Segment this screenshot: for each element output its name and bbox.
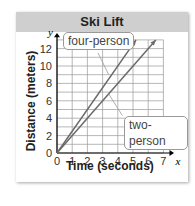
y-axis-label: Distance (meters) <box>24 46 38 156</box>
svg-text:0: 0 <box>54 155 60 167</box>
svg-text:0: 0 <box>46 147 52 159</box>
svg-text:4: 4 <box>46 112 52 124</box>
svg-text:7: 7 <box>160 155 166 167</box>
svg-text:10: 10 <box>40 60 52 72</box>
callout-four-person: four-person <box>63 32 134 50</box>
svg-text:8: 8 <box>46 77 52 89</box>
svg-text:12: 12 <box>40 43 52 55</box>
x-axis-label: Time (seconds) <box>66 159 154 173</box>
svg-text:6: 6 <box>46 95 52 107</box>
svg-text:x: x <box>175 155 181 167</box>
svg-text:2: 2 <box>46 130 52 142</box>
callout-two-person: two-person <box>124 116 188 150</box>
chart-card: Ski Lift 01234567024681012xy Distance (m… <box>16 12 188 182</box>
svg-text:y: y <box>47 26 53 38</box>
